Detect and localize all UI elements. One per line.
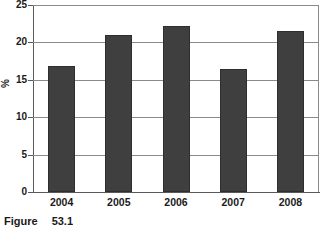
x-tick-label: 2004 [32, 196, 92, 208]
y-tick-label-text: 10 [1, 112, 27, 122]
y-tick-label-text: 15 [1, 75, 27, 85]
bar [48, 66, 75, 192]
x-tick-label: 2008 [260, 196, 320, 208]
bar [163, 26, 190, 192]
y-tick-label: 15 [0, 75, 27, 85]
y-tick-label-text: 20 [1, 37, 27, 47]
bar [105, 35, 132, 192]
bar [220, 69, 247, 192]
caption-number: 53.1 [52, 215, 73, 227]
bar [277, 31, 304, 192]
y-tick-label-text: 5 [1, 150, 27, 160]
figure-container: % 0510152025 20042005200620072008 Figure… [0, 0, 324, 228]
y-tick-label: 5 [0, 150, 27, 160]
figure-caption: Figure53.1 [4, 215, 73, 228]
x-axis-line [33, 192, 320, 193]
x-tick-label: 2005 [89, 196, 149, 208]
x-tick-label: 2007 [203, 196, 263, 208]
plot-area [33, 5, 319, 192]
y-tick-label: 20 [0, 37, 27, 47]
y-tick-label: 25 [0, 0, 27, 10]
y-tick-label-text: 25 [1, 0, 27, 10]
y-tick-label-text: 0 [1, 187, 27, 197]
y-tick-label: 10 [0, 112, 27, 122]
caption-label: Figure [4, 215, 38, 227]
y-tick-label: 0 [0, 187, 27, 197]
x-tick-label: 2006 [146, 196, 206, 208]
gridline [33, 5, 319, 6]
